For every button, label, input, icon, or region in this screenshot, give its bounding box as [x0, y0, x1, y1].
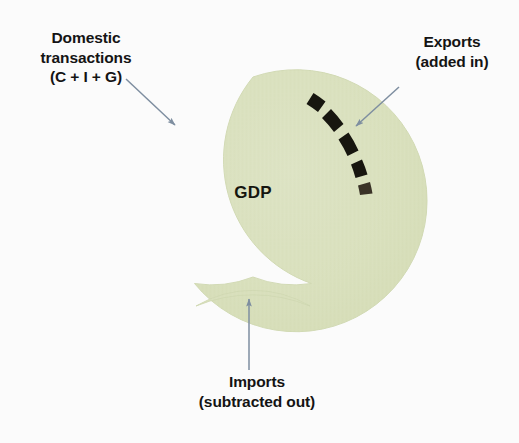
gdp-diagram: GDP Domestic transactions (C + I + G) Ex… [0, 0, 519, 443]
exports-label: Exports (added in) [388, 32, 516, 71]
imports-label: Imports (subtracted out) [152, 372, 362, 411]
gdp-center-label: GDP [193, 183, 313, 203]
domestic-transactions-label: Domestic transactions (C + I + G) [6, 28, 166, 87]
